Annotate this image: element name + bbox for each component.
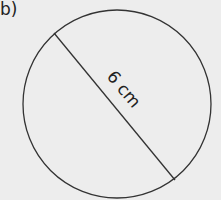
circle-diagram: [0, 0, 221, 200]
circle: [23, 10, 211, 198]
diameter-line: [54, 33, 175, 180]
